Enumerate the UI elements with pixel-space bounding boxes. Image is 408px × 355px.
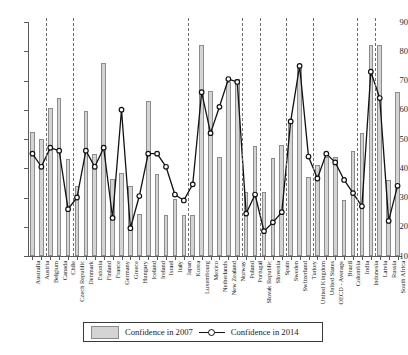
x-tick-mark: [291, 256, 292, 260]
x-tick-mark: [237, 256, 238, 260]
x-tick-mark: [166, 256, 167, 260]
x-tick-label: Japan: [186, 261, 192, 276]
x-tick-mark: [32, 256, 33, 260]
x-tick-mark: [157, 256, 158, 260]
x-tick-label: Greece: [133, 261, 139, 279]
x-tick-mark: [335, 256, 336, 260]
x-tick-mark: [104, 256, 105, 260]
x-tick-label: Poland: [249, 261, 255, 279]
x-tick-mark: [228, 256, 229, 260]
x-tick-label: Finland: [106, 261, 112, 281]
x-tick-label: Canada: [62, 261, 68, 280]
x-tick-label: Slovenia: [275, 261, 281, 283]
x-tick-label: Estonia: [97, 261, 103, 280]
x-tick-mark: [255, 256, 256, 260]
x-tick-mark: [380, 256, 381, 260]
x-tick-mark: [219, 256, 220, 260]
x-tick-label: Netherlands: [222, 261, 228, 292]
x-tick-label: Switzerland: [302, 261, 308, 292]
x-tick-mark: [59, 256, 60, 260]
chart-legend: Confidence in 2007 Confidence in 2014: [83, 322, 323, 342]
x-tick-label: Israel: [168, 261, 174, 275]
x-tick-label: Russia: [391, 261, 397, 278]
x-tick-label: Italy: [177, 261, 183, 273]
legend-bar-label: Confidence in 2007: [125, 328, 193, 337]
x-tick-mark: [300, 256, 301, 260]
x-tick-label: India: [364, 261, 370, 274]
x-tick-label: Chile: [70, 261, 76, 275]
x-tick-label: Austria: [44, 261, 50, 280]
x-tick-mark: [344, 256, 345, 260]
x-tick-label: Czech Republic: [79, 261, 85, 302]
x-tick-label: Colombia: [355, 261, 361, 286]
x-tick-mark: [202, 256, 203, 260]
x-tick-mark: [326, 256, 327, 260]
x-tick-mark: [282, 256, 283, 260]
x-axis: [28, 256, 402, 257]
x-tick-mark: [68, 256, 69, 260]
x-tick-mark: [362, 256, 363, 260]
x-tick-label: Portugal: [257, 261, 263, 283]
x-tick-mark: [264, 256, 265, 260]
x-tick-label: Mexico: [213, 261, 219, 281]
plot-area: [28, 22, 402, 256]
x-tick-label: Australia: [35, 261, 41, 284]
chart-figure: 102030405060708090 AustraliaAustriaBelgi…: [0, 0, 408, 355]
legend-bar-swatch: [91, 326, 119, 339]
x-tick-mark: [130, 256, 131, 260]
x-tick-label: Hungary: [142, 261, 148, 283]
x-tick-mark: [246, 256, 247, 260]
x-tick-label: Ireland: [160, 261, 166, 279]
x-tick-label: Germany: [124, 261, 130, 285]
x-tick-mark: [371, 256, 372, 260]
x-tick-mark: [148, 256, 149, 260]
x-tick-label: Latvia: [382, 261, 388, 277]
x-tick-label: Denmark: [88, 261, 94, 285]
x-tick-mark: [211, 256, 212, 260]
x-tick-mark: [95, 256, 96, 260]
x-tick-label: Indonesia: [373, 261, 379, 286]
x-axis-ticks: [28, 22, 402, 256]
x-tick-label: United Kingdom: [320, 261, 326, 304]
y-tick-mark: [24, 256, 28, 257]
x-tick-mark: [317, 256, 318, 260]
x-tick-mark: [398, 256, 399, 260]
x-tick-mark: [273, 256, 274, 260]
x-tick-label: Norway: [240, 261, 246, 282]
x-tick-label: Korea: [195, 261, 201, 277]
x-tick-label: Brazil: [347, 261, 353, 277]
x-tick-mark: [122, 256, 123, 260]
figure-caption: [18, 345, 408, 354]
x-tick-mark: [50, 256, 51, 260]
x-tick-label: OECD - Average: [338, 261, 344, 305]
x-tick-label: Iceland: [151, 261, 157, 280]
x-tick-mark: [113, 256, 114, 260]
x-tick-label: Spain: [284, 261, 290, 276]
x-tick-label: South Africa: [400, 261, 406, 293]
x-tick-label: France: [115, 261, 121, 278]
x-tick-label: Sweden: [293, 261, 299, 281]
x-tick-mark: [309, 256, 310, 260]
x-tick-mark: [86, 256, 87, 260]
x-tick-mark: [193, 256, 194, 260]
x-tick-label: Slovak Republic: [266, 261, 272, 303]
x-tick-mark: [389, 256, 390, 260]
x-tick-label: Turkey: [311, 261, 317, 279]
x-tick-mark: [41, 256, 42, 260]
x-tick-mark: [77, 256, 78, 260]
legend-line-label: Confidence in 2014: [231, 328, 299, 337]
x-tick-mark: [353, 256, 354, 260]
x-tick-label: Luxembourg: [204, 261, 210, 294]
x-tick-label: United States: [329, 261, 335, 295]
legend-line-marker-icon: [199, 327, 225, 338]
x-tick-mark: [139, 256, 140, 260]
x-tick-mark: [175, 256, 176, 260]
x-tick-label: Belgium: [53, 261, 59, 283]
x-axis-labels: AustraliaAustriaBelgiumCanadaChileCzech …: [28, 261, 402, 321]
x-tick-mark: [184, 256, 185, 260]
x-tick-label: New Zealand: [231, 261, 237, 295]
